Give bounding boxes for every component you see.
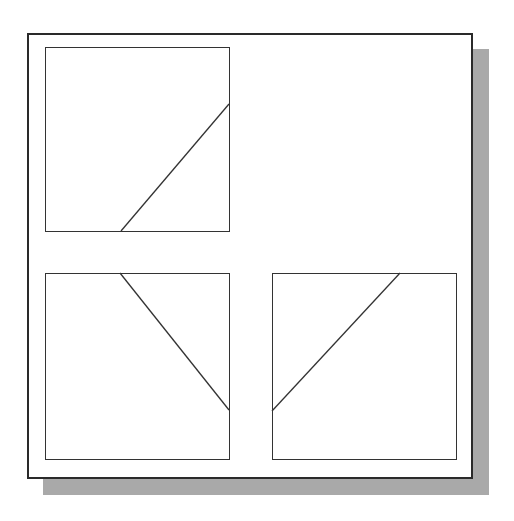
diagonal-line-top-left: [121, 104, 229, 231]
diagram-lines: [0, 0, 514, 521]
diagonal-line-bottom-right: [272, 273, 400, 411]
diagonal-line-bottom-left: [120, 273, 229, 410]
